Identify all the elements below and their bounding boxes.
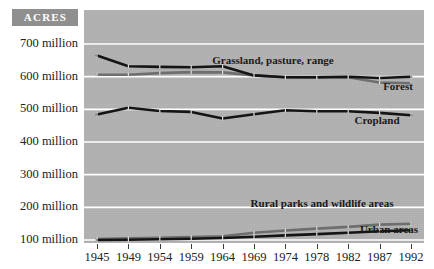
data-point-marker	[159, 109, 160, 113]
data-point-marker	[128, 73, 129, 77]
data-point-marker	[253, 112, 254, 116]
data-point-marker	[253, 74, 254, 78]
data-point-marker	[410, 75, 411, 79]
data-point-marker	[316, 109, 317, 113]
data-point-marker	[159, 71, 160, 75]
data-point-marker	[253, 231, 254, 235]
data-point-marker	[348, 231, 349, 235]
data-point-marker	[96, 238, 97, 242]
data-point-marker	[222, 236, 223, 240]
data-point-marker	[96, 73, 97, 77]
series-label-grassland-pasture-range: Grassland, pasture, range	[212, 54, 334, 66]
series-label-rural-parks-and-wildlife-areas: Rural parks and wildlife areas	[251, 197, 395, 209]
data-point-marker	[222, 117, 223, 121]
data-point-marker	[253, 235, 254, 239]
data-point-marker	[191, 65, 192, 69]
data-point-marker	[410, 113, 411, 117]
data-point-marker	[348, 75, 349, 79]
data-point-marker	[285, 108, 286, 112]
data-point-marker	[128, 106, 129, 110]
data-point-marker	[222, 71, 223, 75]
series-label-cropland: Cropland	[354, 114, 399, 126]
data-point-marker	[316, 232, 317, 236]
data-point-marker	[379, 81, 380, 85]
data-point-marker	[159, 65, 160, 69]
data-point-marker	[191, 110, 192, 114]
series-lines	[96, 54, 411, 242]
data-point-marker	[128, 238, 129, 242]
series-label-forest: Forest	[383, 80, 413, 92]
data-point-marker	[348, 225, 349, 229]
data-point-marker	[316, 227, 317, 231]
data-point-marker	[191, 237, 192, 241]
data-point-marker	[316, 75, 317, 79]
data-point-marker	[285, 229, 286, 233]
series-label-urban-areas: Urban areas	[360, 223, 419, 235]
plot-svg: Grassland, pasture, rangeForestCroplandR…	[0, 0, 434, 269]
acres-land-use-chart: ACRES 700 million600 million500 million4…	[0, 0, 434, 269]
data-point-marker	[96, 113, 97, 117]
data-point-marker	[96, 54, 97, 58]
data-point-marker	[128, 64, 129, 68]
data-point-marker	[191, 70, 192, 74]
data-point-marker	[159, 237, 160, 241]
data-point-marker	[285, 75, 286, 79]
data-point-marker	[348, 109, 349, 113]
data-point-marker	[379, 76, 380, 80]
data-point-marker	[285, 234, 286, 238]
